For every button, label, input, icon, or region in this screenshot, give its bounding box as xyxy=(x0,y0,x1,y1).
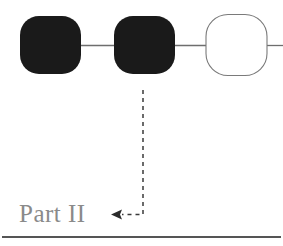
part-ii-callout xyxy=(111,90,143,220)
part-label: Part II xyxy=(19,199,86,229)
callout-dashed-path xyxy=(122,90,143,215)
figure-canvas: Part II xyxy=(0,0,283,246)
callout-arrowhead-icon xyxy=(111,210,122,220)
node-group xyxy=(20,15,267,76)
node-2-filled[interactable] xyxy=(114,16,175,74)
node-3-empty[interactable] xyxy=(206,15,267,76)
node-1-filled[interactable] xyxy=(20,16,81,74)
